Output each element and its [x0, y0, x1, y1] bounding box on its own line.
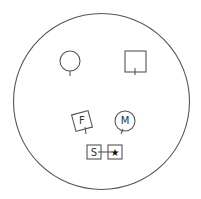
tail-line [85, 127, 86, 134]
symbol-circle-m: M [115, 111, 135, 134]
symbol-square-f: F [72, 111, 93, 134]
symbol-square-star: ★ [108, 145, 122, 159]
symbol-square-top-right [125, 51, 146, 75]
label-m: M [121, 115, 130, 126]
outer-circle [14, 14, 190, 190]
star-icon: ★ [111, 147, 120, 158]
label-f: F [79, 115, 85, 126]
diagram-canvas: F M S ★ [0, 0, 201, 199]
symbol-circle-top-left [60, 51, 80, 76]
label-s: S [91, 147, 97, 158]
